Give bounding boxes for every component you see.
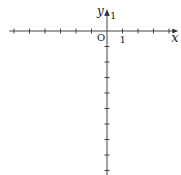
y-unit-label: 1 — [110, 10, 116, 21]
x-unit-label: 1 — [120, 34, 126, 45]
y-axis-arrow-icon — [105, 9, 110, 15]
y-axis-label: y — [96, 4, 104, 18]
x-axis-label: x — [171, 30, 179, 45]
coordinate-plane: x y O 1 1 — [0, 0, 181, 175]
origin-label: O — [97, 32, 105, 43]
